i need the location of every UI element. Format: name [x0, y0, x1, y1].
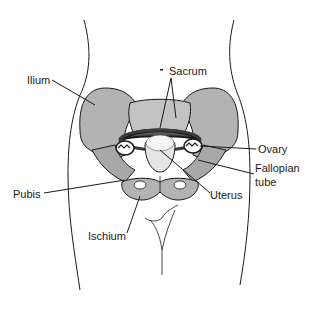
ilium-leader	[52, 80, 95, 105]
label-ovary: Ovary	[258, 143, 287, 155]
label-uterus: Uterus	[210, 189, 242, 201]
label-ischium: Ischium	[88, 230, 126, 242]
ischium-leader	[127, 196, 140, 233]
genital-outline	[150, 210, 175, 275]
right-obturator-foramen	[174, 181, 186, 189]
body-outline-right	[230, 20, 250, 285]
sacrum	[129, 99, 191, 132]
label-sacrum: Sacrum	[169, 65, 207, 77]
label-fallopian-tube-line1: Fallopian	[255, 162, 300, 174]
label-pubis: Pubis	[13, 188, 41, 200]
label-ilium: Ilium	[27, 74, 50, 86]
pelvis-diagram: Ilium Sacrum Ovary Fallopian tube Pubis …	[0, 0, 318, 309]
body-outline-left	[68, 20, 89, 290]
pubis-leader	[44, 180, 125, 193]
left-obturator-foramen	[134, 181, 146, 189]
label-fallopian-tube-line2: tube	[255, 176, 276, 188]
